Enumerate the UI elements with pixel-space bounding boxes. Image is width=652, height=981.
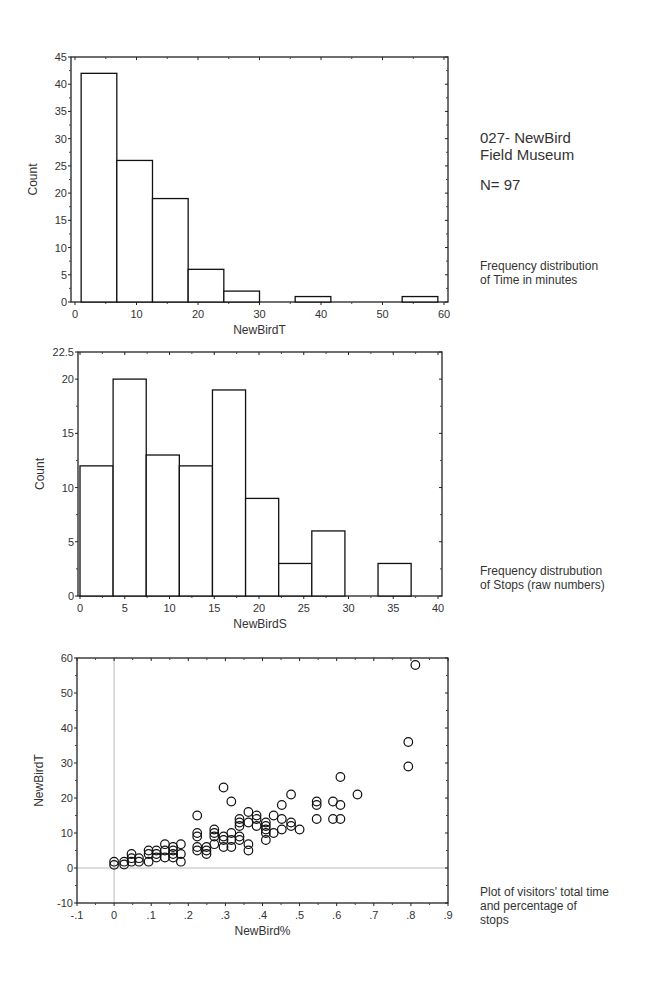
x-tick-label: .7 xyxy=(369,909,378,921)
histogram-bar xyxy=(295,297,331,302)
scatter-point xyxy=(177,840,186,849)
y-tick-label: 15 xyxy=(62,427,74,439)
histogram-bar xyxy=(117,160,153,302)
y-axis-label: NewBirdT xyxy=(32,753,46,806)
x-tick-label: 0 xyxy=(111,909,117,921)
histogram-bar xyxy=(80,466,113,596)
histogram-bar xyxy=(113,379,146,596)
x-tick-label: 20 xyxy=(253,602,265,614)
histogram-bar xyxy=(146,455,179,596)
histogram-bar xyxy=(152,199,188,302)
scatter-point xyxy=(277,801,286,810)
scatter-point xyxy=(277,815,286,824)
scatter-point xyxy=(287,790,296,799)
time-vs-percent-scatter: -.10.1.2.3.4.5.6.7.8.9-100102030405060Ne… xyxy=(32,652,453,938)
x-tick-label: 15 xyxy=(208,602,220,614)
x-tick-label: 50 xyxy=(376,308,388,320)
histogram-bar xyxy=(246,498,279,596)
histogram-bar xyxy=(224,291,260,302)
scatter-point xyxy=(336,773,345,782)
y-tick-label: 22.5 xyxy=(53,346,74,358)
x-tick-label: 40 xyxy=(432,602,444,614)
x-tick-label: 35 xyxy=(387,602,399,614)
y-tick-label: 10 xyxy=(55,242,67,254)
x-tick-label: 60 xyxy=(438,308,450,320)
histogram-bar xyxy=(179,466,212,596)
y-tick-label: 45 xyxy=(55,51,67,63)
x-tick-label: .5 xyxy=(295,909,304,921)
histogram-bar xyxy=(378,563,411,596)
x-tick-label: 25 xyxy=(298,602,310,614)
y-axis-label: Count xyxy=(33,457,47,490)
histogram-bar xyxy=(312,531,345,596)
y-tick-label: 40 xyxy=(55,78,67,90)
x-tick-label: 10 xyxy=(163,602,175,614)
y-tick-label: 5 xyxy=(68,536,74,548)
y-tick-label: 50 xyxy=(61,687,73,699)
histogram-bar xyxy=(188,269,224,302)
x-tick-label: .9 xyxy=(443,909,452,921)
x-axis-label: NewBird% xyxy=(234,924,290,938)
x-tick-label: .1 xyxy=(147,909,156,921)
y-tick-label: 20 xyxy=(61,792,73,804)
y-tick-label: 25 xyxy=(55,160,67,172)
x-tick-label: 30 xyxy=(342,602,354,614)
y-tick-label: -10 xyxy=(57,897,73,909)
x-tick-label: 30 xyxy=(253,308,265,320)
scatter-point xyxy=(269,811,278,820)
y-tick-label: 20 xyxy=(55,187,67,199)
histogram-bar xyxy=(81,73,117,302)
y-tick-label: 0 xyxy=(61,296,67,308)
x-tick-label: .4 xyxy=(258,909,267,921)
time-histogram: 0102030405060051015202530354045NewBirdTC… xyxy=(26,51,450,337)
scatter-point xyxy=(193,811,202,820)
histogram-bar xyxy=(212,390,245,596)
y-tick-label: 10 xyxy=(62,482,74,494)
scatter-point xyxy=(353,790,362,799)
y-tick-label: 40 xyxy=(61,722,73,734)
scatter-point xyxy=(244,818,253,827)
y-tick-label: 15 xyxy=(55,214,67,226)
scatter-point xyxy=(336,801,345,810)
histogram-bar xyxy=(279,563,312,596)
y-axis-label: Count xyxy=(26,163,40,196)
x-tick-label: .6 xyxy=(332,909,341,921)
y-tick-label: 30 xyxy=(55,133,67,145)
scatter-point xyxy=(227,797,236,806)
x-tick-label: .3 xyxy=(221,909,230,921)
x-tick-label: -.1 xyxy=(71,909,84,921)
x-tick-label: 10 xyxy=(130,308,142,320)
x-tick-label: 0 xyxy=(72,308,78,320)
y-tick-label: 20 xyxy=(62,373,74,385)
x-tick-label: .2 xyxy=(184,909,193,921)
x-tick-label: 0 xyxy=(77,602,83,614)
stops-histogram: 05101520253035400510152022.5NewBirdSCoun… xyxy=(33,346,444,631)
x-tick-label: 20 xyxy=(192,308,204,320)
x-tick-label: 40 xyxy=(315,308,327,320)
scatter-point xyxy=(219,783,228,792)
y-tick-label: 10 xyxy=(61,827,73,839)
y-tick-label: 5 xyxy=(61,269,67,281)
scatter-point xyxy=(244,846,253,855)
histogram-bar xyxy=(402,297,438,302)
x-tick-label: 5 xyxy=(122,602,128,614)
y-tick-label: 30 xyxy=(61,757,73,769)
charts-canvas: 0102030405060051015202530354045NewBirdTC… xyxy=(0,0,652,981)
y-tick-label: 0 xyxy=(68,590,74,602)
scatter-point xyxy=(312,815,321,824)
x-axis-label: NewBirdT xyxy=(233,323,286,337)
y-tick-label: 60 xyxy=(61,652,73,664)
scatter-point xyxy=(411,661,420,670)
scatter-point xyxy=(404,762,413,771)
y-tick-label: 35 xyxy=(55,105,67,117)
scatter-point xyxy=(295,825,304,834)
x-axis-label: NewBirdS xyxy=(233,617,286,631)
scatter-point xyxy=(244,808,253,817)
x-tick-label: .8 xyxy=(406,909,415,921)
scatter-point xyxy=(277,825,286,834)
y-tick-label: 0 xyxy=(67,862,73,874)
scatter-point xyxy=(404,738,413,747)
